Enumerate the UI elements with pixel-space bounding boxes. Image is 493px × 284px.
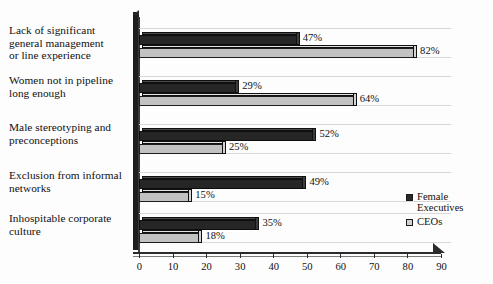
bar-top-face: [142, 141, 226, 144]
x-axis: 0102030405060708090: [133, 247, 451, 284]
category-label-0: Lack of significant general management o…: [9, 24, 131, 62]
bar-female-executives-0: [139, 32, 297, 42]
category-label-0-line2: general management: [9, 37, 131, 50]
bar-female-executives-4: [139, 217, 256, 227]
bar-end-cap: [198, 230, 202, 243]
bar-end-cap: [222, 141, 226, 154]
bar-body: [139, 220, 256, 230]
bar-value-label: 18%: [205, 229, 224, 242]
category-label-4: Inhospitable corporate culture: [9, 212, 131, 237]
bar-top-face: [142, 80, 239, 83]
x-tick-label: 0: [137, 260, 142, 273]
x-tick-label: 10: [168, 260, 179, 273]
category-label-3: Exclusion from informal networks: [9, 169, 131, 194]
category-label-0-line3: or line experience: [9, 49, 131, 62]
y-axis-wall-top: [133, 10, 139, 15]
x-tick: [441, 254, 442, 259]
bar-value-label: 64%: [360, 92, 379, 105]
bar-value-label: 82%: [420, 44, 439, 57]
bar-ceos-3: [139, 189, 189, 199]
bar-body: [139, 192, 189, 202]
x-axis-arrow-icon: [433, 243, 445, 253]
bar-body: [139, 131, 313, 141]
x-tick-label: 60: [336, 260, 347, 273]
bar-end-cap: [413, 45, 417, 58]
category-label-2: Male stereotyping and preconceptions: [9, 121, 131, 146]
bar-body: [139, 35, 297, 45]
bar-top-face: [142, 217, 259, 220]
bar-end-cap: [302, 176, 306, 189]
category-label-4-line2: culture: [9, 225, 131, 238]
x-tick-label: 20: [201, 260, 212, 273]
x-tick: [240, 254, 241, 259]
bar-end-cap: [235, 80, 239, 93]
bar-ceos-0: [139, 45, 414, 55]
category-label-1-line1: Women not in pipeline: [9, 74, 131, 87]
bar-ceos-1: [139, 93, 354, 103]
x-tick-label: 50: [302, 260, 313, 273]
category-label-1-line2: long enough: [9, 87, 131, 100]
bar-value-label: 35%: [262, 216, 281, 229]
x-tick: [307, 254, 308, 259]
gridline: [139, 124, 451, 125]
x-tick: [340, 254, 341, 259]
legend-label-female-executives: Female Executives: [417, 191, 463, 214]
bar-end-cap: [296, 32, 300, 45]
bar-female-executives-2: [139, 128, 313, 138]
category-label-3-line2: networks: [9, 182, 131, 195]
gridline: [139, 172, 451, 173]
bar-value-label: 15%: [195, 188, 214, 201]
x-tick-label: 40: [268, 260, 279, 273]
bar-top-face: [142, 93, 357, 96]
x-tick: [206, 254, 207, 259]
bar-body: [139, 96, 354, 106]
gridline: [139, 28, 451, 29]
category-label-0-line1: Lack of significant: [9, 24, 131, 37]
category-label-4-line1: Inhospitable corporate: [9, 212, 131, 225]
bar-body: [139, 48, 414, 58]
bar-top-face: [142, 128, 316, 131]
x-axis-line: [133, 252, 441, 254]
bar-end-cap: [312, 128, 316, 141]
bar-top-face: [142, 176, 306, 179]
category-label-2-line2: preconceptions: [9, 134, 131, 147]
bar-top-face: [142, 230, 202, 233]
x-tick-label: 30: [235, 260, 246, 273]
x-axis-line-shadow: [133, 256, 441, 257]
bar-value-label: 29%: [242, 79, 261, 92]
legend-item-ceos[interactable]: CEOs: [406, 216, 492, 227]
gridline: [139, 213, 451, 214]
plot-area: 47%29%52%49%35%82%64%25%15%18%: [133, 10, 451, 250]
x-tick: [273, 254, 274, 259]
legend-swatch-icon-ceos: [406, 219, 413, 226]
bar-body: [139, 179, 303, 189]
legend: Female Executives CEOs: [406, 191, 492, 229]
x-tick: [139, 254, 140, 259]
bar-ceos-2: [139, 141, 223, 151]
bar-top-face: [142, 32, 300, 35]
bar-body: [139, 233, 199, 243]
x-tick-label: 80: [403, 260, 414, 273]
legend-label-female-executives-line1: Female: [417, 191, 463, 202]
category-axis-labels: Lack of significant general management o…: [0, 0, 128, 284]
x-tick: [173, 254, 174, 259]
bar-ceos-4: [139, 230, 199, 240]
bar-body: [139, 144, 223, 154]
legend-label-ceos-line1: CEOs: [417, 216, 442, 227]
legend-label-female-executives-line2: Executives: [417, 202, 463, 213]
bar-value-label: 25%: [229, 140, 248, 153]
legend-label-ceos: CEOs: [417, 216, 442, 227]
bar-female-executives-3: [139, 176, 303, 186]
bar-end-cap: [353, 93, 357, 106]
legend-swatch-icon-female-executives: [406, 194, 413, 201]
x-tick: [407, 254, 408, 259]
category-label-2-line1: Male stereotyping and: [9, 121, 131, 134]
gridline: [139, 76, 451, 77]
bar-top-face: [142, 45, 417, 48]
bar-body: [139, 83, 236, 93]
bar-end-cap: [255, 217, 259, 230]
bar-top-face: [142, 189, 192, 192]
x-tick-label: 90: [436, 260, 447, 273]
category-label-1: Women not in pipeline long enough: [9, 74, 131, 99]
legend-item-female-executives[interactable]: Female Executives: [406, 191, 492, 214]
